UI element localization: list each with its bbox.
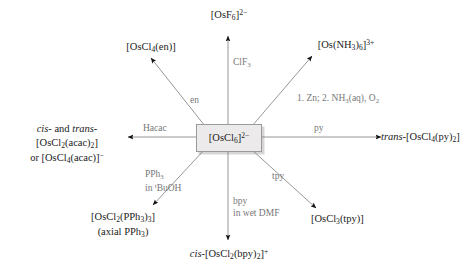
reagent-en: en [190, 94, 199, 106]
reagent-pph3-label: PPh3in tBuOH [145, 169, 181, 193]
reagent-pph3: PPh3in tBuOH [145, 168, 205, 194]
product-acac: cis- and trans-[OsCl2(acac)2]or [OsCl4(a… [6, 122, 128, 166]
product-osf6-label: [OsF6]2− [211, 9, 247, 20]
arrow-to-osnh3 [252, 56, 312, 126]
reagent-clf3: ClF3 [233, 56, 251, 70]
arrow-to-oscl4en [151, 58, 205, 126]
reagent-hacac-label: Hacac [143, 123, 167, 133]
reagent-bpy-label: bpyin wet DMF [233, 196, 279, 218]
reagent-hacac: Hacac [143, 122, 167, 134]
product-ostpy: [OsCl3(tpy)] [311, 212, 387, 227]
reagent-py-label: py [314, 123, 324, 133]
product-osbpy-label: cis-[OsCl2(bpy)2]+ [190, 248, 268, 259]
product-ostpy-label: [OsCl3(tpy)] [311, 213, 364, 224]
reagent-zn-nh3: 1. Zn; 2. NH3(aq), O2 [297, 92, 379, 106]
product-oscl4en: [OsCl4(en)] [110, 40, 192, 55]
product-oscl4en-label: [OsCl4(en)] [126, 41, 175, 52]
product-osnh3-label: [Os(NH3)6]3+ [318, 39, 374, 50]
reaction-scheme-diagram: [OsCl6]2− [OsF6]2− [OsCl4(en)] [Os(NH3)6… [0, 0, 461, 274]
reagent-clf3-label: ClF3 [233, 57, 251, 67]
product-acac-label: cis- and trans-[OsCl2(acac)2]or [OsCl4(a… [30, 123, 104, 163]
product-ospph3: [OsCl2(PPh3)3](axial PPh3) [68, 210, 178, 240]
reagent-py: py [314, 122, 324, 134]
center-node-oscl6: [OsCl6]2− [196, 124, 262, 152]
product-ospph3-label: [OsCl2(PPh3)3](axial PPh3) [91, 211, 155, 237]
reagent-zn-nh3-label: 1. Zn; 2. NH3(aq), O2 [297, 93, 379, 103]
product-ospy: trans-[OsCl4(py)2] [381, 130, 459, 145]
reagent-en-label: en [190, 95, 199, 105]
product-ospy-label: trans-[OsCl4(py)2] [381, 131, 460, 142]
reagent-tpy-label: tpy [272, 171, 284, 181]
product-osbpy: cis-[OsCl2(bpy)2]+ [170, 247, 288, 262]
reagent-tpy: tpy [272, 170, 284, 182]
product-osnh3: [Os(NH3)6]3+ [300, 38, 392, 53]
center-node-label: [OsCl6]2− [209, 131, 249, 145]
reagent-bpy: bpyin wet DMF [233, 195, 307, 220]
product-osf6: [OsF6]2− [198, 8, 260, 23]
